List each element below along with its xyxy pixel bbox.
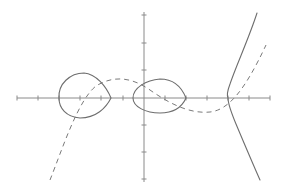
axes [17, 12, 270, 182]
right-branch-curve [227, 13, 260, 180]
diagram-canvas [0, 0, 286, 194]
curves [50, 13, 266, 180]
left-oval-curve [59, 73, 111, 118]
diagram-figure [0, 0, 286, 194]
